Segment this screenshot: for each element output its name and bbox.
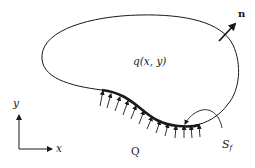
- domain-source-label: q(x, y): [133, 55, 166, 67]
- flux-boundary: [102, 90, 200, 126]
- boundary-flux-label: Q: [131, 145, 140, 157]
- coordinate-axes: [19, 115, 52, 149]
- boundary-segment-label: Sf: [222, 138, 234, 152]
- normal-arrow: [219, 24, 235, 41]
- x-axis-label: x: [56, 142, 62, 154]
- boundary-segment-sub: f: [229, 144, 234, 152]
- normal-label: n: [238, 8, 246, 19]
- diagram-canvas: n q(x, y) Q Sf y x: [0, 0, 255, 168]
- y-axis-label: y: [12, 97, 20, 109]
